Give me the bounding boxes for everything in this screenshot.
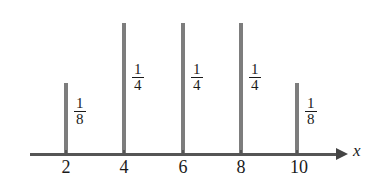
fraction-numerator: 1 <box>249 62 261 77</box>
x-tick-mark <box>123 150 125 156</box>
x-tick-mark <box>240 150 242 156</box>
fraction-numerator: 1 <box>191 62 203 77</box>
stem-bar <box>181 23 185 153</box>
fraction-denominator: 4 <box>249 77 261 93</box>
stem-bar <box>122 23 126 153</box>
value-label-fraction: 1 8 <box>74 96 86 128</box>
pmf-stem-plot: x 2 1 8 4 1 4 6 1 4 8 1 4 10 1 8 <box>0 0 376 189</box>
stem-bar <box>295 83 299 153</box>
value-label-fraction: 1 4 <box>249 62 261 94</box>
arrow-right-icon <box>336 148 348 160</box>
fraction-denominator: 4 <box>132 77 144 93</box>
fraction-numerator: 1 <box>132 62 144 77</box>
stem-bar <box>64 83 68 153</box>
value-label-fraction: 1 8 <box>305 96 317 128</box>
fraction-denominator: 8 <box>74 111 86 127</box>
x-axis-line <box>30 153 340 156</box>
x-tick-label: 10 <box>290 158 308 178</box>
x-tick-label: 6 <box>179 158 188 178</box>
x-tick-label: 8 <box>237 158 246 178</box>
value-label-fraction: 1 4 <box>132 62 144 94</box>
x-tick-mark <box>296 150 298 156</box>
x-tick-label: 2 <box>62 158 71 178</box>
x-tick-label: 4 <box>120 158 129 178</box>
fraction-denominator: 4 <box>191 77 203 93</box>
fraction-numerator: 1 <box>305 96 317 111</box>
x-axis-label: x <box>353 142 361 159</box>
x-tick-mark <box>65 150 67 156</box>
fraction-numerator: 1 <box>74 96 86 111</box>
stem-bar <box>239 23 243 153</box>
x-tick-mark <box>182 150 184 156</box>
value-label-fraction: 1 4 <box>191 62 203 94</box>
fraction-denominator: 8 <box>305 111 317 127</box>
